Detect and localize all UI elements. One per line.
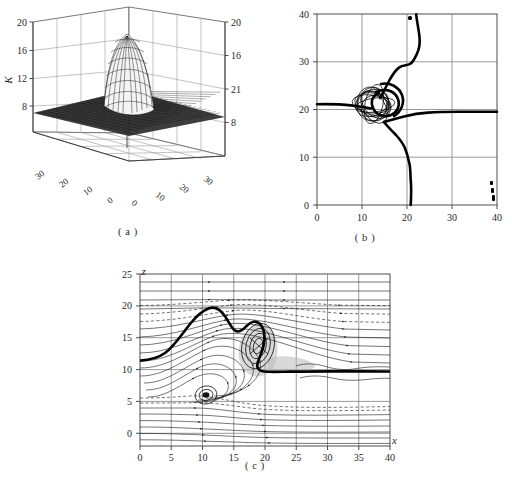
- panel-c-y-tick-3: 15: [122, 332, 132, 343]
- panel-b-y-axis: [313, 14, 317, 205]
- panel-b-y-tick-0: 0: [304, 200, 309, 211]
- panel-b-x-tick-1: 10: [357, 212, 367, 223]
- panel-b-x-tick-3: 30: [447, 212, 457, 223]
- panel-b-y-tick-3: 30: [299, 56, 309, 67]
- figure-root: 20 16 12 8 K 20 16 21 8 30 20 10 0 0: [0, 0, 512, 485]
- panel-a-left-tick-0: 20: [17, 17, 27, 28]
- panel-a-svg: 20 16 12 8 K 20 16 21 8 30 20 10 0 0: [0, 0, 256, 250]
- panel-c-y-tick-0: 0: [127, 428, 132, 439]
- panel-c-x-tick-7: 35: [354, 452, 364, 463]
- panel-b-x-tick-2: 20: [402, 212, 412, 223]
- panel-c-x-tick-6: 30: [323, 452, 333, 463]
- panel-c-streamline-plot: 0 5 10 15 20 25 z 0 5 10 15 20: [110, 262, 402, 485]
- panel-b-gridlines: [317, 14, 497, 205]
- panel-a-right-base-tick-3: 30: [202, 174, 216, 188]
- panel-b-y-tick-1: 10: [299, 152, 309, 163]
- panel-a-left-base-tick-1: 20: [57, 176, 71, 190]
- panel-c-x-tick-2: 10: [198, 452, 208, 463]
- panel-a-left-base-tick-0: 30: [33, 168, 47, 182]
- panel-b-y-tick-2: 20: [299, 104, 309, 115]
- panel-c-y-axis-label: z: [141, 265, 147, 277]
- panel-c-y-axis: [136, 274, 140, 433]
- panel-c-y-tick-5: 25: [122, 269, 132, 280]
- panel-b-trajectory-plot: 0 10 20 30 40 0 10 20 30 40: [280, 0, 512, 250]
- panel-b-x-tick-4: 40: [492, 212, 502, 223]
- panel-b-x-axis: [317, 205, 497, 209]
- panel-c-x-tick-1: 5: [169, 452, 174, 463]
- panel-c-y-tick-2: 10: [122, 364, 132, 375]
- panel-b-caption: ( b ): [325, 232, 405, 243]
- panel-a-right-tick-1: 16: [231, 50, 241, 61]
- panel-b-speckles: [408, 16, 495, 201]
- panel-a-left-base-tick-3: 0: [105, 195, 115, 206]
- panel-a-left-tick-1: 16: [17, 45, 27, 56]
- panel-a-surface-plot: 20 16 12 8 K 20 16 21 8 30 20 10 0 0: [0, 0, 256, 250]
- panel-a-vertical-axis-label: K: [2, 76, 14, 85]
- panel-a-right-tick-0: 20: [231, 17, 241, 28]
- panel-a-right-tick-2: 21: [231, 84, 241, 95]
- panel-a-left-axis: [30, 22, 34, 132]
- panel-a-right-base-tick-1: 10: [154, 190, 168, 204]
- panel-c-x-tick-8: 40: [385, 452, 395, 463]
- panel-c-x-axis: [140, 446, 390, 450]
- panel-b-y-tick-4: 40: [299, 9, 309, 20]
- panel-c-x-tick-0: 0: [138, 452, 143, 463]
- panel-a-left-tick-3: 8: [22, 101, 27, 112]
- panel-b-x-tick-0: 0: [315, 212, 320, 223]
- panel-a-left-base-tick-2: 10: [81, 184, 95, 198]
- panel-c-y-tick-4: 20: [122, 300, 132, 311]
- panel-a-left-tick-2: 12: [17, 73, 27, 84]
- panel-c-x-axis-label: x: [391, 434, 397, 446]
- panel-c-y-tick-1: 5: [127, 396, 132, 407]
- panel-c-caption: ( c ): [215, 460, 295, 471]
- panel-a-right-base-tick-0: 0: [130, 198, 140, 209]
- panel-b-svg: 0 10 20 30 40 0 10 20 30 40: [280, 0, 512, 250]
- panel-a-right-tick-3: 8: [231, 117, 236, 128]
- panel-a-caption: ( a ): [88, 226, 168, 237]
- panel-a-right-axis: [225, 22, 229, 156]
- panel-a-right-base-tick-2: 20: [178, 182, 192, 196]
- panel-c-svg: 0 5 10 15 20 25 z 0 5 10 15 20: [110, 262, 402, 485]
